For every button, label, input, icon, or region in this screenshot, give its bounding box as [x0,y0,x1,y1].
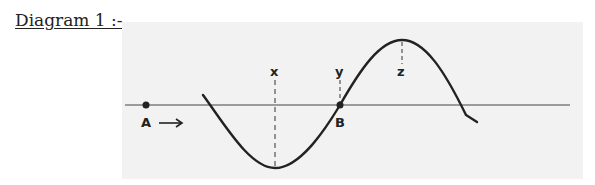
marker-y-label: y [335,64,344,79]
point-b-label: B [335,115,345,130]
point-a-label: A [141,115,151,130]
point-a-dot [143,102,150,109]
point-b-dot [337,102,344,109]
marker-x-label: x [270,64,279,79]
marker-z-label: z [397,64,405,79]
wave-diagram: x y z A B [0,0,595,185]
direction-arrow-icon [159,119,182,127]
